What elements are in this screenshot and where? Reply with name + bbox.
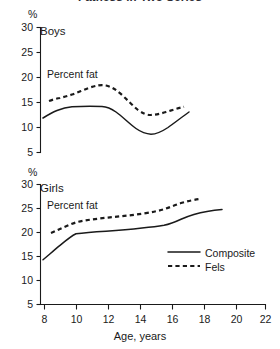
- xtick-12: 12: [98, 313, 119, 325]
- boys-series-group: [43, 85, 189, 134]
- figure-container: Fatness in Two Series % Boys Percent fat…: [0, 0, 280, 349]
- legend-swatches: [168, 252, 200, 266]
- xtick-22: 22: [255, 313, 276, 325]
- girls-ytick-15: 15: [4, 250, 33, 262]
- xtick-16: 16: [162, 313, 183, 325]
- boys-ytick-25: 25: [4, 46, 33, 58]
- girls-ytick-30: 30: [4, 178, 33, 190]
- girls-y-axis: [37, 185, 41, 305]
- boys-series-composite-line: [43, 106, 189, 134]
- shared-x-axis: [41, 305, 266, 310]
- chart-svg-layer: [0, 0, 280, 349]
- boys-y-axis: [37, 28, 41, 153]
- xtick-8: 8: [34, 313, 55, 325]
- boys-ytick-20: 20: [4, 71, 33, 83]
- boys-ytick-5: 5: [4, 146, 33, 158]
- girls-ytick-25: 25: [4, 202, 33, 214]
- girls-series-group: [43, 199, 222, 260]
- xtick-14: 14: [130, 313, 151, 325]
- boys-series-fels-line: [49, 85, 184, 115]
- xtick-18: 18: [194, 313, 215, 325]
- boys-ytick-15: 15: [4, 96, 33, 108]
- xtick-10: 10: [66, 313, 87, 325]
- girls-series-fels-line: [51, 199, 199, 233]
- boys-ytick-30: 30: [4, 21, 33, 33]
- girls-ytick-20: 20: [4, 226, 33, 238]
- xtick-20: 20: [226, 313, 247, 325]
- girls-ytick-10: 10: [4, 274, 33, 286]
- girls-ytick-5: 5: [4, 298, 33, 310]
- boys-ytick-10: 10: [4, 121, 33, 133]
